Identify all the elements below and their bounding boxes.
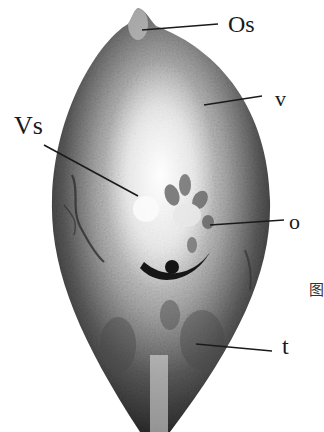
label-testes: t — [282, 334, 289, 358]
label-ventral-sucker: Vs — [14, 113, 43, 139]
label-vitellaria: v — [275, 88, 286, 110]
ventral-sucker — [133, 196, 159, 222]
label-oral-sucker: Os — [228, 12, 255, 36]
specimen-body — [52, 8, 270, 432]
label-ovary: o — [289, 211, 300, 233]
figure-caption-partial: 图 — [309, 283, 324, 298]
